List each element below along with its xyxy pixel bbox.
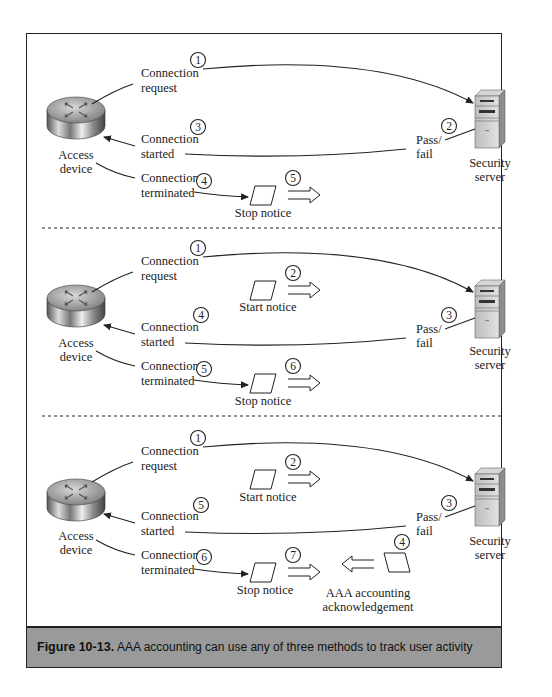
step-number: 3 [195, 121, 201, 133]
connection-started-label: Connectionstarted [141, 509, 199, 538]
access-device-label: Accessdevice [58, 336, 94, 364]
step-number: 5 [201, 363, 207, 375]
access-device-label: Accessdevice [58, 148, 94, 176]
start-notice-icon [250, 281, 276, 300]
connection-request-label: Connectionrequest [141, 66, 199, 95]
security-server-label: Securityserver [469, 534, 511, 562]
security-server-label: Securityserver [469, 344, 511, 372]
send-arrow-icon [288, 187, 320, 203]
stop-notice-icon [250, 374, 276, 393]
step-number: 5 [290, 172, 296, 184]
figure-number: Figure 10-13. [37, 640, 114, 654]
router-icon [47, 285, 105, 327]
send-arrow-icon [288, 471, 320, 487]
figure-caption-bar: Figure 10-13. AAA accounting can use any… [26, 626, 502, 668]
step-number: 1 [195, 54, 201, 66]
send-arrow-icon [288, 564, 320, 580]
step-number: 1 [195, 432, 201, 444]
connection-started-label: Connectionstarted [141, 320, 199, 349]
stop-notice-label: Stop notice [235, 206, 292, 220]
send-arrow-icon [288, 282, 320, 298]
stop-notice-label: Stop notice [237, 583, 294, 597]
server-icon [475, 468, 505, 526]
start-notice-icon [250, 470, 276, 489]
server-icon [475, 90, 505, 148]
ack-arrow-icon [342, 556, 374, 572]
step-number: 6 [290, 360, 296, 372]
stop-notice-icon [250, 563, 276, 582]
connection-terminated-label: Connectionterminated [141, 548, 199, 577]
step-number: 6 [201, 551, 207, 563]
connection-request-label: Connectionrequest [141, 444, 199, 473]
step-number: 2 [290, 456, 296, 468]
access-device-label: Accessdevice [58, 529, 94, 557]
step-number: 4 [198, 309, 204, 321]
pass-fail-label: Pass/fail [416, 322, 442, 350]
start-notice-label: Start notice [239, 490, 297, 504]
step-number: 2 [290, 267, 296, 279]
start-notice-label: Start notice [239, 300, 297, 314]
router-icon [47, 479, 105, 521]
router-icon [47, 97, 105, 139]
step-number: 3 [446, 497, 452, 509]
connection-terminated-label: Connectionterminated [141, 171, 199, 200]
send-arrow-icon [288, 375, 320, 391]
figure-caption: AAA accounting can use any of three meth… [117, 640, 473, 654]
ack-notice-icon [384, 553, 410, 572]
panel-2: Accessdevice Securityserver Connectionre… [47, 241, 512, 409]
accounting-ack-label: AAA accountingacknowledgement [323, 586, 414, 614]
stop-notice-label: Stop notice [235, 394, 292, 408]
connection-request-label: Connectionrequest [141, 254, 199, 283]
step-number: 5 [198, 499, 204, 511]
step-number: 7 [290, 549, 296, 561]
step-number: 4 [201, 175, 207, 187]
step-number: 1 [195, 242, 201, 254]
connection-started-label: Connectionstarted [141, 132, 199, 161]
panel-1: Accessdevice Securityserver Connectionre… [47, 53, 512, 221]
aaa-accounting-diagram: Accessdevice Securityserver Connectionre… [0, 0, 552, 697]
connection-terminated-label: Connectionterminated [141, 359, 199, 388]
server-icon [475, 280, 505, 338]
step-number: 2 [446, 120, 452, 132]
step-number: 3 [446, 309, 452, 321]
pass-fail-label: Pass/fail [416, 510, 442, 538]
step-number: 4 [399, 536, 405, 548]
pass-fail-label: Pass/fail [416, 133, 442, 161]
stop-notice-icon [250, 186, 276, 205]
security-server-label: Securityserver [469, 156, 511, 184]
panel-3: Accessdevice Securityserver Connectionre… [47, 431, 512, 615]
